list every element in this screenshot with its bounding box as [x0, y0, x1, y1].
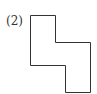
- l-shaped-polygon: [31, 16, 91, 93]
- diagram-canvas: [0, 0, 97, 94]
